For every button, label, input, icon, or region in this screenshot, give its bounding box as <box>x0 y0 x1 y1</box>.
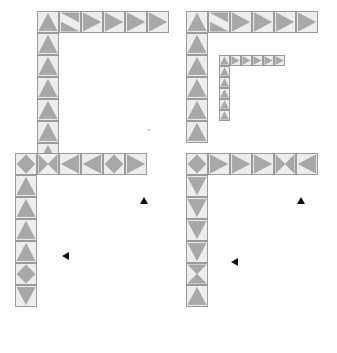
panel-bottom-right-tile-r1-c0 <box>186 175 208 197</box>
panel-bottom-right-tile-r0-c4 <box>274 153 296 175</box>
panel-bottom-right-tile-r3-c0 <box>186 219 208 241</box>
bottom-right-figure <box>0 0 337 353</box>
triangle-glyph-hourglass-v-icon <box>187 264 207 284</box>
panel-bottom-right-tile-r0-c2 <box>230 153 252 175</box>
panel-bottom-right-tile-r6-c0 <box>186 285 208 307</box>
triangle-glyph-down-icon <box>187 220 207 240</box>
panel-bottom-right-tile-r5-c0 <box>186 263 208 285</box>
triangle-glyph-hourglass-h-icon <box>275 154 295 174</box>
triangle-glyph-down-icon <box>187 242 207 262</box>
triangle-glyph-left-icon <box>297 154 317 174</box>
triangle-glyph-down-icon <box>187 198 207 218</box>
triangle-glyph-right-icon <box>209 154 229 174</box>
panel-bottom-right-left-marker <box>231 258 238 266</box>
triangle-glyph-right-icon <box>253 154 273 174</box>
triangle-glyph-down-icon <box>187 176 207 196</box>
panel-bottom-right-tile-r2-c0 <box>186 197 208 219</box>
panel-bottom-right-tile-r0-c5 <box>296 153 318 175</box>
triangle-glyph-right-icon <box>231 154 251 174</box>
panel-bottom-right-tile-r0-c0 <box>186 153 208 175</box>
panel-bottom-right-tile-r0-c3 <box>252 153 274 175</box>
panel-bottom-right-up-marker <box>297 197 305 204</box>
panel-bottom-right-tile-r4-c0 <box>186 241 208 263</box>
triangle-glyph-up-icon <box>187 286 207 306</box>
panel-bottom-right-tile-r0-c1 <box>208 153 230 175</box>
triangle-glyph-diamond-icon <box>187 154 207 174</box>
stray-pixel <box>148 129 150 131</box>
